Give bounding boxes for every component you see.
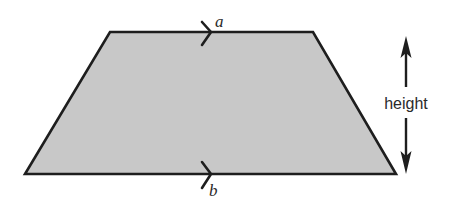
label-side-b: b [209,181,218,200]
label-side-a: a [215,12,224,31]
trapezoid-shape [25,32,396,174]
trapezoid-diagram: a b height [0,0,453,211]
label-height: height [384,95,428,112]
